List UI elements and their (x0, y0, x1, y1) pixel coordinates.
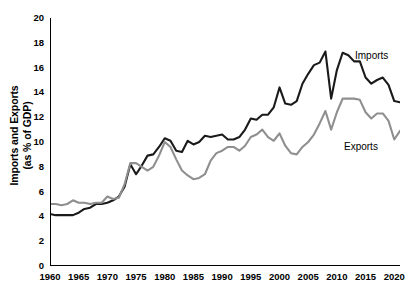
x-tick-1990: 1990 (207, 271, 237, 282)
y-tick-18: 18 (22, 37, 44, 48)
series-line-imports (50, 51, 400, 215)
y-axis-title-line1: Imports and Exports (8, 85, 21, 185)
x-tick-1970: 1970 (92, 271, 122, 282)
x-tick-1985: 1985 (178, 271, 208, 282)
y-tick-20: 20 (22, 12, 44, 23)
x-tick-1980: 1980 (150, 271, 180, 282)
x-tick-1960: 1960 (35, 271, 65, 282)
y-tick-16: 16 (22, 62, 44, 73)
y-tick-0: 0 (22, 260, 44, 271)
y-tick-8: 8 (22, 161, 44, 172)
series-layer (50, 51, 400, 215)
x-tick-1975: 1975 (121, 271, 151, 282)
series-label-exports: Exports (344, 141, 378, 152)
y-tick-4: 4 (22, 210, 44, 221)
x-tick-2000: 2000 (265, 271, 295, 282)
y-tick-12: 12 (22, 111, 44, 122)
x-tick-1995: 1995 (236, 271, 266, 282)
series-label-imports: Imports (355, 50, 388, 61)
y-tick-14: 14 (22, 86, 44, 97)
y-tick-2: 2 (22, 235, 44, 246)
x-tick-1965: 1965 (64, 271, 94, 282)
x-tick-2020: 2020 (379, 271, 409, 282)
x-tick-2010: 2010 (322, 271, 352, 282)
x-tick-2005: 2005 (293, 271, 323, 282)
y-tick-10: 10 (22, 136, 44, 147)
x-tick-2015: 2015 (351, 271, 381, 282)
y-tick-6: 6 (22, 186, 44, 197)
chart-container: Imports and Exports (as % of GDP) 024681… (0, 0, 416, 303)
